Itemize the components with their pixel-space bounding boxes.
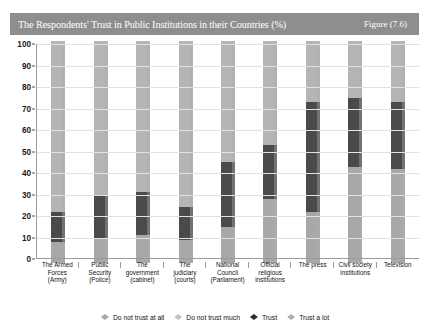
bar-segment-side xyxy=(402,102,405,169)
bar-segment-side xyxy=(359,167,362,259)
x-axis-category-label: Civil societyinstitutions xyxy=(334,261,377,276)
bar-segment[interactable] xyxy=(51,44,65,212)
legend-item[interactable]: Trust a lot xyxy=(286,314,329,321)
x-axis-label-line: (Army) xyxy=(37,276,78,284)
bar-segment-side xyxy=(274,145,277,199)
x-axis-label-line: The Armed xyxy=(37,261,78,269)
diamond-marker xyxy=(100,314,110,320)
bar-segment-face xyxy=(306,212,317,259)
x-axis-label-line: judiciary xyxy=(165,269,206,277)
x-axis-label-line: institutions xyxy=(250,276,291,284)
x-axis-label-line: Council xyxy=(207,269,248,277)
bar-segment-face xyxy=(51,242,62,259)
bar-segment-side xyxy=(402,169,405,259)
bar-segment-face xyxy=(94,44,105,195)
bar-segment-side xyxy=(62,242,65,259)
bar-segment-face xyxy=(136,235,147,259)
bar-segment[interactable] xyxy=(94,238,108,260)
bar-segment-face xyxy=(179,207,190,239)
bar-segment-face xyxy=(391,102,402,169)
bar-segment[interactable] xyxy=(221,44,235,162)
y-axis-tick-label: 40 xyxy=(22,169,31,178)
bar-segment-side xyxy=(147,235,150,259)
x-axis-label-line: The xyxy=(122,261,163,269)
plot-area xyxy=(36,44,419,259)
bar-segment-side xyxy=(190,240,193,259)
bar-segment-face xyxy=(179,240,190,259)
bar-segment[interactable] xyxy=(263,145,277,199)
bar-segment[interactable] xyxy=(391,44,405,102)
plot-wrapper: 0102030405060708090100 xyxy=(10,44,419,259)
bar-segment[interactable] xyxy=(51,242,65,259)
bar-segment-side xyxy=(190,44,193,207)
bar-segment[interactable] xyxy=(94,44,108,195)
bar-segment[interactable] xyxy=(263,199,277,259)
bar-segment[interactable] xyxy=(391,102,405,169)
diamond-marker xyxy=(173,314,183,320)
gridline xyxy=(37,66,419,67)
x-axis-label-line: Official xyxy=(250,261,291,269)
bar-segment-side xyxy=(190,207,193,239)
x-axis-label-line: Civil society xyxy=(335,261,376,269)
bar-segment-face xyxy=(391,44,402,102)
gridline xyxy=(37,195,419,196)
y-axis-tick-label: 90 xyxy=(22,61,31,70)
bar-segment[interactable] xyxy=(136,192,150,235)
bar-segment[interactable] xyxy=(348,167,362,259)
bar-segment-face xyxy=(391,169,402,259)
gridline xyxy=(37,152,419,153)
gridline xyxy=(37,238,419,239)
bar-segment[interactable] xyxy=(348,44,362,98)
gridline xyxy=(37,130,419,131)
x-axis-label-line: (Parliament) xyxy=(207,276,248,284)
x-axis-category-label: Television xyxy=(377,261,420,269)
y-axis-tick-mark xyxy=(32,194,35,195)
legend-item[interactable]: Do not trust much xyxy=(173,314,240,321)
x-axis-label-line: institutions xyxy=(335,269,376,277)
x-axis-line xyxy=(36,258,420,260)
bar-segment-side xyxy=(232,227,235,259)
bar-segment[interactable] xyxy=(136,235,150,259)
y-axis-tick-mark xyxy=(32,87,35,88)
y-axis-tick-mark xyxy=(32,173,35,174)
x-axis-label-line: (courts) xyxy=(165,276,206,284)
x-axis-label-line: The xyxy=(165,261,206,269)
bar-segment-face xyxy=(221,44,232,162)
bar-segment[interactable] xyxy=(179,207,193,239)
x-axis-label-line: Public xyxy=(80,261,121,269)
bar-segment[interactable] xyxy=(179,240,193,259)
x-axis-label-line: Forces xyxy=(37,269,78,277)
bar-segment-side xyxy=(317,212,320,259)
bar-segment-side xyxy=(232,44,235,162)
x-axis-category-label: Officialreligiousinstitutions xyxy=(249,261,292,284)
bar-segment-face xyxy=(221,227,232,259)
x-axis-label-line: The press xyxy=(292,261,333,269)
legend-item[interactable]: Trust xyxy=(249,314,277,321)
bar-segment-face xyxy=(348,167,359,259)
bar-segment[interactable] xyxy=(306,44,320,102)
legend-item[interactable]: Do not trust at all xyxy=(100,314,164,321)
y-axis: 0102030405060708090100 xyxy=(10,44,36,259)
y-axis-tick-mark xyxy=(32,44,35,45)
x-axis-label-line: religious xyxy=(250,269,291,277)
y-axis-tick-mark xyxy=(32,65,35,66)
gridline xyxy=(37,87,419,88)
bar-segment[interactable] xyxy=(391,169,405,259)
x-axis-category-label: Thejudiciary(courts) xyxy=(164,261,207,284)
x-axis-label-line: Television xyxy=(378,261,419,269)
bar-segment-face xyxy=(348,44,359,98)
bar-segment[interactable] xyxy=(306,212,320,259)
bar-segment[interactable] xyxy=(221,227,235,259)
bar-segment-face xyxy=(136,192,147,235)
y-axis-tick-mark xyxy=(32,151,35,152)
chart-title-bar: The Respondents' Trust in Public Institu… xyxy=(10,13,419,35)
x-axis-label-line: (Police) xyxy=(80,276,121,284)
bar-segment-side xyxy=(105,44,108,195)
bar-segment-face xyxy=(94,238,105,260)
y-axis-tick-label: 70 xyxy=(22,104,31,113)
bar-segment-face xyxy=(263,199,274,259)
gridline xyxy=(37,109,419,110)
y-axis-tick-label: 30 xyxy=(22,190,31,199)
gridline xyxy=(37,173,419,174)
bar-segment[interactable] xyxy=(179,44,193,207)
